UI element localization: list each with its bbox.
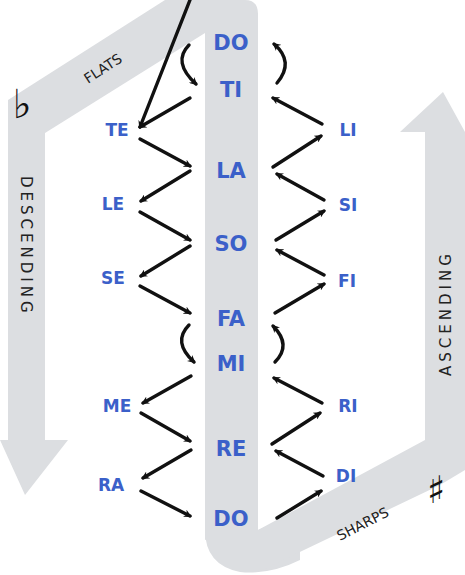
arrow-li-to-ti — [273, 98, 322, 124]
arrow-le-to-so — [140, 212, 190, 240]
descending-label: DESCENDING — [17, 176, 35, 317]
arrow-do-to-ti — [182, 45, 196, 84]
arrow-so-to-si — [276, 211, 324, 240]
arrow-fi-to-so — [277, 250, 324, 275]
arrow-si-to-la — [277, 174, 324, 200]
arrow-fa-to-mi — [182, 325, 194, 362]
arrow-ti-to-do — [274, 44, 285, 83]
arrow-mi-to-me — [143, 376, 191, 403]
arrow-ri-to-mi — [274, 378, 322, 403]
arrow-me-to-re — [141, 413, 190, 441]
syllable-ra: RA — [98, 475, 125, 495]
arrow-ra-to-do — [141, 491, 190, 516]
syllable-ri: RI — [338, 396, 357, 416]
syllable-mi: MI — [217, 352, 246, 376]
syllable-re: RE — [216, 437, 247, 461]
descending-arrows — [140, 0, 196, 516]
arrow-se-to-fa — [140, 286, 190, 313]
arrow-la-to-le — [141, 171, 190, 201]
syllable-so: SO — [215, 232, 248, 256]
syllable-le: LE — [102, 194, 124, 214]
arrow-mi-to-fa — [273, 326, 283, 362]
syllable-di: DI — [336, 466, 356, 486]
flat-symbol-icon: ♭ — [13, 81, 32, 127]
syllable-la: LA — [216, 159, 246, 183]
syllable-li: LI — [339, 120, 356, 140]
syllable-si: SI — [339, 195, 358, 215]
arrow-re-to-ri — [272, 413, 320, 444]
arrow-te-to-la — [140, 139, 190, 166]
sharp-symbol-icon: ♯ — [427, 468, 445, 512]
syllable-do-top: DO — [213, 31, 248, 55]
arrow-so-to-se — [141, 246, 190, 276]
arrow-la-to-li — [273, 136, 321, 167]
ascending-arrows — [272, 44, 324, 518]
syllable-te: TE — [105, 120, 128, 140]
syllable-me: ME — [103, 396, 132, 416]
ascending-label: ASCENDING — [437, 250, 455, 376]
arrow-fa-to-fi — [275, 284, 324, 313]
arrow-di-to-re — [276, 451, 323, 476]
solfege-diagram: FLATS SHARPS DESCENDING ASCENDING ♭ ♯ DO… — [0, 0, 465, 575]
arrow-re-to-ra — [143, 450, 191, 478]
syllable-do-bottom: DO — [213, 507, 248, 531]
syllable-fa: FA — [217, 307, 246, 331]
syllable-se: SE — [101, 268, 125, 288]
syllable-ti: TI — [220, 78, 242, 102]
syllable-fi: FI — [338, 271, 356, 291]
